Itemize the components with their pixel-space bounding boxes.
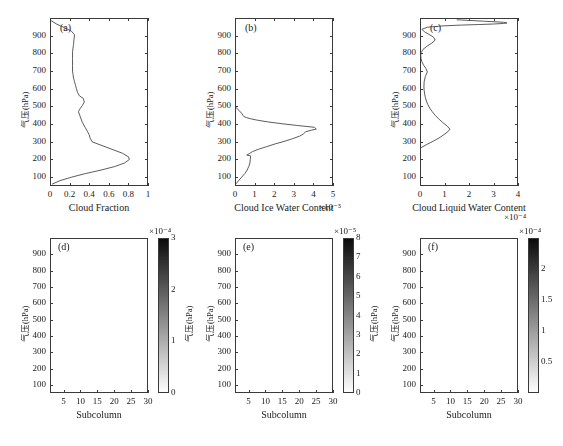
xtick-f-2 xyxy=(467,390,468,393)
colorbar-tick-label-f-1: 1 xyxy=(541,325,546,335)
panel-f: (f)1002003004005006007008009005101520253… xyxy=(0,0,563,446)
ytick-f-5 xyxy=(420,303,423,304)
xtick-f-1 xyxy=(450,390,451,393)
colorbar-tick-label-f-2: 1.5 xyxy=(541,294,552,304)
plot-area-f xyxy=(420,238,518,393)
ytick-f-4 xyxy=(420,320,423,321)
ytick-label-f-7: 800 xyxy=(396,265,416,275)
ytick-f-0 xyxy=(420,385,423,386)
ytick-label-f-8: 900 xyxy=(396,248,416,258)
panel-label-f: (f) xyxy=(428,241,438,252)
ytick-f-8 xyxy=(420,254,423,255)
colorbar-frame-f xyxy=(528,238,539,393)
ytick-f-2 xyxy=(420,352,423,353)
ytick-f-6 xyxy=(420,287,423,288)
colorbar-tick-label-f-3: 2 xyxy=(541,263,546,273)
xtick-f-4 xyxy=(501,390,502,393)
ytick-label-f-2: 300 xyxy=(396,346,416,356)
ytick-f-3 xyxy=(420,336,423,337)
ytick-label-f-1: 200 xyxy=(396,363,416,373)
ytick-f-7 xyxy=(420,271,423,272)
xaxis-title-f: Subcolumn xyxy=(420,409,518,420)
yaxis-title-f: 气压(hPa) xyxy=(388,305,400,341)
xtick-f-3 xyxy=(484,390,485,393)
figure-canvas: (a)10020030040050060070080090000.20.40.6… xyxy=(0,0,563,446)
colorbar-multiplier-f: ×10⁻⁴ xyxy=(519,226,541,236)
ytick-label-f-6: 700 xyxy=(396,281,416,291)
xtick-label-f-5: 30 xyxy=(506,396,530,406)
xtick-f-5 xyxy=(518,390,519,393)
xtick-f-0 xyxy=(434,390,435,393)
ytick-f-1 xyxy=(420,369,423,370)
colorbar-tick-label-f-0: 0.5 xyxy=(541,356,552,366)
ytick-label-f-0: 100 xyxy=(396,379,416,389)
